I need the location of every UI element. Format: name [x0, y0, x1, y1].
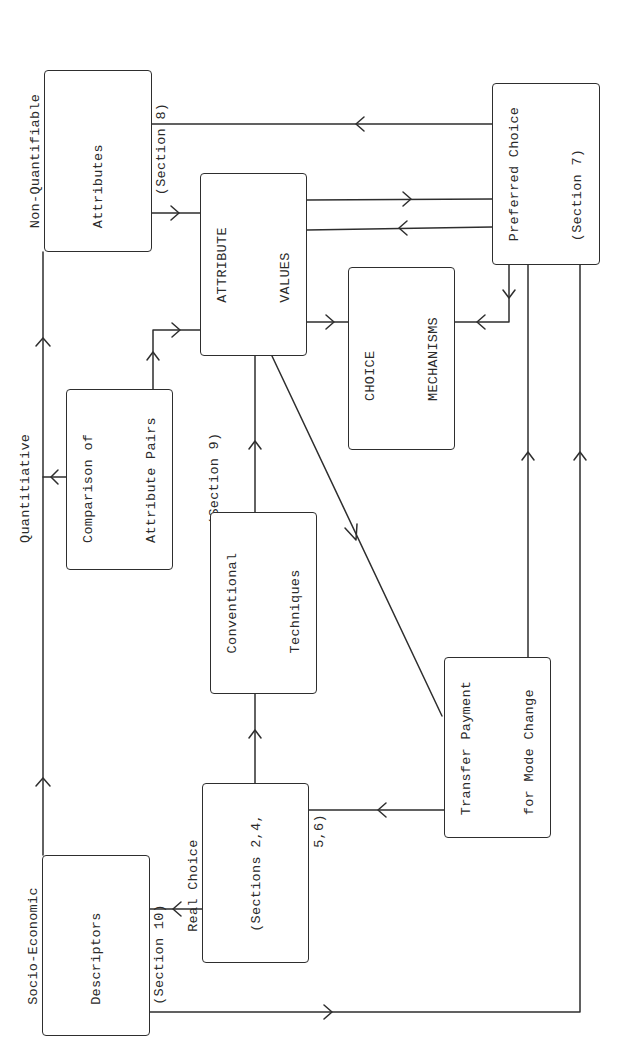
node-label-line: (Section 10)	[149, 887, 170, 1005]
node-label-line: (Section 8)	[151, 94, 172, 228]
node-label-line: Attributes	[88, 94, 109, 228]
node-label-line: Transfer Payment	[456, 680, 477, 814]
node-label-line: (Sections 2,4,	[245, 814, 266, 932]
node-label-line: Preferred Choice	[504, 107, 525, 241]
node-conventional-techniques: Conventional Techniques	[210, 512, 317, 694]
node-label-line: Non-Quantifiable	[25, 94, 46, 228]
node-label-line: CHOICE	[360, 316, 381, 400]
node-transfer-payment: Transfer Payment for Mode Change	[444, 657, 551, 838]
node-choice-mechanisms: CHOICE MECHANISMS	[348, 267, 455, 450]
node-label-line: for Mode Change	[519, 680, 540, 814]
node-label-line: Quantitiative	[15, 416, 36, 542]
node-non-quantifiable-attributes: Non-Quantifiable Attributes (Section 8)	[44, 70, 152, 252]
node-label-line: Techniques	[285, 553, 306, 654]
node-label-line: (Section 7)	[567, 107, 588, 241]
node-label-line: Comparison of	[78, 416, 99, 542]
node-label-line: Descriptors	[86, 887, 107, 1005]
node-label-line: Attribute Pairs	[141, 416, 162, 542]
node-socio-economic-descriptors: Socio-Economic Descriptors (Section 10)	[42, 855, 150, 1036]
node-label-line: MECHANISMS	[423, 316, 444, 400]
node-label-line: Conventional	[222, 553, 243, 654]
node-real-choice: Real Choice (Sections 2,4, 5,6)	[202, 783, 309, 963]
node-label-line: Socio-Economic	[23, 887, 44, 1005]
node-attribute-values: ATTRIBUTE VALUES	[200, 173, 307, 356]
node-label-line: 5,6)	[308, 814, 329, 932]
node-preferred-choice: Preferred Choice (Section 7)	[492, 83, 600, 265]
node-label-line: VALUES	[275, 227, 296, 303]
node-label-line: ATTRIBUTE	[212, 227, 233, 303]
node-quantitative-comparison: Quantitiative Comparison of Attribute Pa…	[66, 389, 173, 570]
